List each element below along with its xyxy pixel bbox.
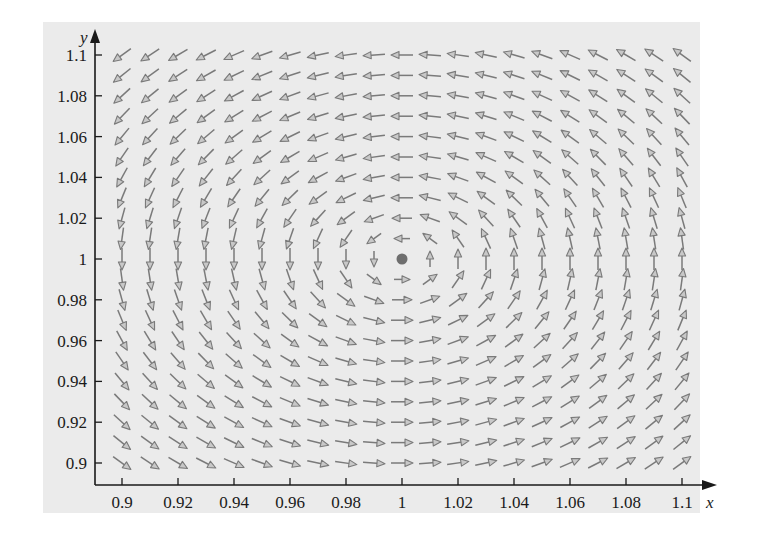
vector-arrow [196, 458, 216, 468]
vector-arrow [646, 109, 662, 124]
vector-arrow [449, 212, 467, 225]
vector-arrow [505, 355, 524, 366]
vector-arrow [118, 188, 127, 208]
vector-arrow [229, 208, 238, 228]
vector-arrow [257, 290, 268, 309]
vector-arrow [174, 248, 181, 270]
vector-arrow [447, 132, 468, 139]
vector-arrow [423, 274, 437, 284]
vector-arrow [508, 291, 520, 309]
vector-arrow [538, 228, 545, 249]
vector-arrow [510, 269, 518, 290]
vector-arrow [622, 208, 630, 229]
vector-arrow [646, 394, 662, 409]
vector-arrow [284, 209, 296, 227]
vector-arrow [203, 269, 210, 291]
vector-arrow [679, 269, 686, 291]
vector-arrow [476, 132, 497, 140]
vector-arrow [392, 296, 412, 303]
vector-arrow [535, 189, 549, 206]
vector-arrow [532, 111, 552, 121]
vector-arrow [589, 416, 608, 428]
vector-arrow [171, 353, 185, 370]
vector-arrow [141, 415, 158, 429]
vector-arrow [146, 208, 154, 229]
vector-arrow [335, 399, 357, 406]
y-tick-label: 1.1 [66, 46, 87, 65]
vector-arrow [592, 311, 603, 330]
vector-arrow [391, 317, 413, 324]
vector-arrow [618, 109, 635, 123]
vector-arrow [589, 90, 608, 102]
vector-arrow [503, 51, 524, 58]
vector-arrow [114, 415, 130, 430]
vector-arrow [506, 190, 522, 205]
vector-arrow [419, 418, 441, 425]
vector-arrow [447, 71, 469, 78]
vector-arrow [231, 269, 238, 290]
vector-arrow [452, 271, 464, 288]
vector-arrow [142, 394, 158, 409]
vector-arrow [363, 195, 384, 202]
vector-arrow [363, 317, 384, 324]
vector-arrow [508, 209, 520, 227]
vector-arrow [335, 440, 357, 447]
vector-arrow [617, 49, 636, 60]
vector-arrow [116, 148, 128, 166]
vector-arrow [282, 190, 298, 205]
vector-arrow [363, 174, 385, 181]
vector-arrow [590, 149, 605, 165]
vector-arrow [481, 229, 490, 249]
vector-arrow [252, 111, 272, 121]
vector-arrow [419, 316, 440, 323]
vector-arrow [113, 68, 130, 82]
vector-arrow [647, 373, 662, 389]
x-tick-label: 0.94 [219, 493, 249, 512]
vector-arrow [336, 337, 357, 345]
vector-arrow [141, 49, 159, 61]
vector-arrow [230, 228, 237, 249]
vector-arrow [342, 249, 349, 269]
vector-arrow [145, 310, 154, 330]
y-axis-label: y [78, 28, 88, 47]
vector-arrow [419, 194, 440, 201]
vector-arrow [560, 438, 580, 448]
vector-arrow [170, 374, 186, 389]
vector-arrow [673, 457, 691, 470]
vector-arrow [169, 89, 187, 102]
vector-arrow [454, 249, 461, 269]
vector-arrow [143, 148, 156, 166]
vector-arrow [533, 131, 552, 142]
vector-arrow [504, 132, 524, 142]
vector-arrow [118, 310, 127, 330]
vector-arrow [202, 290, 210, 310]
vector-arrow [174, 228, 181, 250]
vector-arrow [169, 457, 188, 468]
y-tick-label: 1.04 [57, 168, 87, 187]
vector-arrow [537, 290, 548, 309]
vector-arrow [145, 188, 154, 208]
vector-arrow [618, 129, 634, 144]
vector-arrow [253, 376, 272, 387]
vector-arrow [286, 269, 294, 290]
vector-arrow [113, 436, 130, 450]
vector-arrow [561, 396, 580, 408]
vector-arrow [622, 289, 630, 310]
vector-arrow [113, 457, 131, 470]
vector-arrow [281, 171, 299, 184]
vector-arrow [420, 214, 440, 222]
vector-arrow [144, 331, 155, 350]
vector-arrow [651, 269, 658, 291]
vector-arrow [230, 248, 237, 270]
vector-arrow [420, 296, 440, 304]
vector-arrow [645, 49, 663, 61]
vector-arrow [114, 394, 129, 410]
vector-arrow [594, 208, 602, 228]
vector-arrow [650, 228, 657, 250]
y-tick-label: 0.9 [66, 454, 87, 473]
vector-arrow [566, 248, 573, 270]
vector-arrow [620, 332, 632, 350]
vector-arrow [227, 169, 242, 185]
vector-arrow [645, 69, 663, 82]
vector-arrow [225, 375, 243, 388]
